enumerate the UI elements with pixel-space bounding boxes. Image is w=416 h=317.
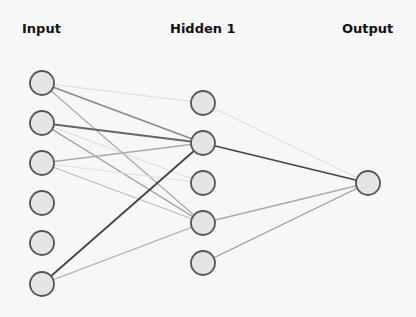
connection-edge <box>42 223 203 284</box>
neuron-node <box>30 231 54 255</box>
neuron-node <box>191 251 215 275</box>
neuron-node <box>191 171 215 195</box>
neuron-node <box>30 111 54 135</box>
connection-edge <box>42 83 203 143</box>
neuron-node <box>30 151 54 175</box>
connection-edge <box>203 183 368 223</box>
connection-edge <box>203 103 368 183</box>
connection-edge <box>42 123 203 143</box>
connection-edge <box>42 83 203 103</box>
neuron-node <box>191 91 215 115</box>
neuron-node <box>356 171 380 195</box>
network-diagram <box>0 0 416 317</box>
connection-edge <box>203 183 368 263</box>
neuron-node <box>30 191 54 215</box>
neuron-node <box>30 272 54 296</box>
neuron-node <box>191 211 215 235</box>
connection-edge <box>203 143 368 183</box>
neuron-node <box>191 131 215 155</box>
connection-edge <box>42 163 203 183</box>
connection-edge <box>42 143 203 163</box>
neuron-node <box>30 71 54 95</box>
